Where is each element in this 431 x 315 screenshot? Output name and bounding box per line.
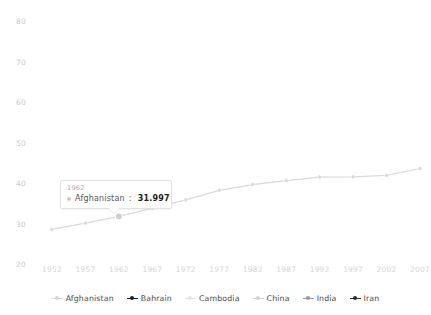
tooltip-series-dot-icon [67,197,71,201]
legend-item-bahrain[interactable]: Bahrain [127,294,172,303]
y-tick-label: 40 [0,180,26,188]
legend-label: Bahrain [141,294,172,303]
x-tick-label: 1982 [236,266,270,274]
data-point[interactable] [251,182,255,186]
x-tick-label: 1967 [135,266,169,274]
data-point[interactable] [318,175,322,179]
chart-legend: AfghanistanBahrainCambodiaChinaIndiaIran [0,294,431,303]
x-tick-label: 1992 [303,266,337,274]
legend-marker-icon [127,295,138,303]
y-tick-label: 50 [0,140,26,148]
legend-label: India [317,294,337,303]
y-tick-label: 80 [0,18,26,26]
x-tick-label: 2002 [370,266,404,274]
legend-marker-icon [253,295,264,303]
x-tick-label: 1977 [202,266,236,274]
data-point[interactable] [217,188,221,192]
tooltip-value: 31.997 [138,195,170,203]
data-point-highlighted[interactable] [116,213,123,220]
x-tick-label: 2007 [403,266,431,274]
x-tick-label: 1997 [336,266,370,274]
legend-marker-icon [185,295,196,303]
data-point[interactable] [284,179,288,183]
legend-label: Cambodia [199,294,240,303]
y-tick-label: 30 [0,221,26,229]
legend-label: Afghanistan [66,294,114,303]
x-tick-label: 1952 [35,266,69,274]
x-tick-label: 1962 [102,266,136,274]
data-point[interactable] [50,227,54,231]
data-point[interactable] [418,166,422,170]
data-point[interactable] [384,173,388,177]
legend-item-india[interactable]: India [303,294,337,303]
data-point[interactable] [351,175,355,179]
legend-item-china[interactable]: China [253,294,290,303]
legend-marker-icon [52,295,63,303]
legend-label: China [267,294,290,303]
legend-item-cambodia[interactable]: Cambodia [185,294,240,303]
line-chart: 80706050403020 1952195719621967197219771… [0,0,431,315]
tooltip-row: Afghanistan : 31.997 [67,195,165,203]
y-tick-label: 20 [0,261,26,269]
data-point[interactable] [184,198,188,202]
y-tick-label: 70 [0,59,26,67]
legend-label: Iran [364,294,380,303]
y-tick-label: 60 [0,99,26,107]
legend-marker-icon [350,295,361,303]
legend-item-iran[interactable]: Iran [350,294,380,303]
x-tick-label: 1972 [169,266,203,274]
tooltip-arrow-icon [109,208,119,213]
tooltip-header: 1962 [67,185,165,192]
x-tick-label: 1957 [68,266,102,274]
legend-item-afghanistan[interactable]: Afghanistan [52,294,114,303]
tooltip-separator: : [129,195,132,203]
x-tick-label: 1987 [269,266,303,274]
tooltip: 1962 Afghanistan : 31.997 [60,180,172,209]
legend-marker-icon [303,295,314,303]
data-point[interactable] [83,221,87,225]
tooltip-series-name: Afghanistan [75,195,125,203]
